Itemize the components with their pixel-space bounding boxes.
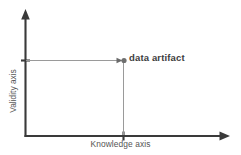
data-artifact-label: data artifact xyxy=(129,52,185,63)
data-point-marker[interactable] xyxy=(121,58,126,63)
y-axis-label: Validity axis xyxy=(8,69,18,113)
x-axis-label: Knowledge axis xyxy=(0,139,241,149)
y-axis-arrow-icon xyxy=(21,9,30,20)
axis-diagram-svg xyxy=(0,0,241,155)
diagram-canvas: data artifact Knowledge axis Validity ax… xyxy=(0,0,241,155)
y-axis-label-container: Validity axis xyxy=(6,55,20,127)
